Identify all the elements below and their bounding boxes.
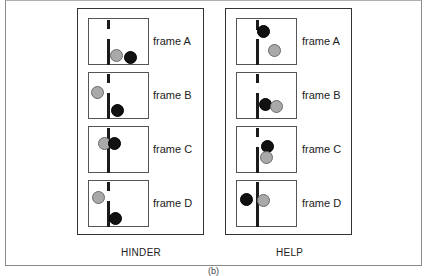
frame-label: frame A [153,35,191,47]
help-frame-a [236,18,297,65]
black-ball [111,104,124,117]
hinder-caption: HINDER [121,247,161,258]
grey-ball [92,191,105,204]
hinder-frame-a [88,18,149,65]
frame-label: frame C [302,143,341,155]
frame-label: frame B [302,89,341,101]
barrier-top-segment [107,74,110,83]
barrier-top-segment [256,74,259,83]
help-panel: frame A frame B frame C frame D [225,8,352,235]
frame-label: frame B [153,89,192,101]
barrier-bottom-segment [107,39,110,65]
barrier-line [107,128,110,173]
frame-label: frame D [153,197,192,209]
grey-ball [91,86,104,99]
hinder-frame-d [88,180,149,227]
hinder-frame-b [88,72,149,119]
black-ball [109,212,122,225]
help-frame-b [236,72,297,119]
figure-sublabel: (b) [208,266,219,276]
frame-label: frame D [302,197,341,209]
help-frame-c [236,126,297,173]
barrier-top-segment [107,20,110,29]
figure-border [5,0,422,266]
grey-ball [268,44,281,57]
help-frame-d [236,180,297,227]
barrier-bottom-segment [256,93,259,119]
barrier-bottom-segment [256,39,259,65]
frame-label: frame A [302,35,340,47]
frame-label: frame C [153,143,192,155]
help-caption: HELP [276,247,303,258]
hinder-panel: frame A frame B frame C frame D [77,8,204,235]
grey-ball [257,194,270,207]
black-ball [257,25,270,38]
barrier-bottom-segment [107,93,110,119]
hinder-frame-c [88,126,149,173]
grey-ball [110,49,123,62]
black-ball [124,51,137,64]
barrier-top-segment [256,128,259,137]
grey-ball [260,151,273,164]
black-ball [108,137,121,150]
barrier-bottom-segment [256,147,259,173]
grey-ball [270,100,283,113]
barrier-top-segment [107,182,110,191]
black-ball [240,193,253,206]
